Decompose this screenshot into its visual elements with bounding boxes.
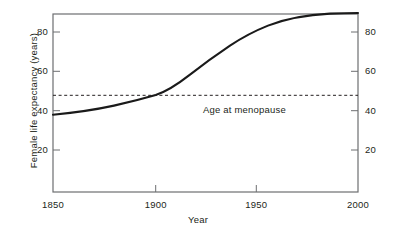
x-tick-1850: 1850 (33, 199, 73, 210)
y-axis-title: Female life expectancy (years) (28, 11, 39, 191)
x-axis-title: Year (0, 214, 396, 225)
menopause-annotation-label: Age at menopause (203, 104, 286, 115)
chart-figure: 80 60 40 20 80 60 40 20 1850 1900 1950 2… (0, 0, 396, 239)
life-expectancy-curve (53, 13, 358, 115)
x-tick-2000: 2000 (338, 199, 378, 210)
y-axis-right-ticks (351, 32, 358, 150)
y-tick-right-40: 40 (365, 105, 393, 116)
y-axis-left-ticks (53, 32, 60, 150)
x-axis-ticks (156, 185, 257, 192)
y-tick-right-60: 60 (365, 65, 393, 76)
x-tick-1950: 1950 (236, 199, 276, 210)
y-tick-right-20: 20 (365, 144, 393, 155)
y-tick-right-80: 80 (365, 26, 393, 37)
plot-frame (53, 14, 358, 192)
x-tick-1900: 1900 (136, 199, 176, 210)
